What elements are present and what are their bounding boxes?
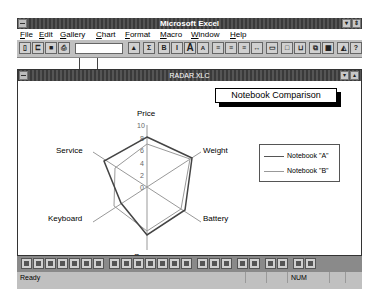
svg-text:10: 10 [137, 122, 145, 129]
new-icon[interactable]: ▯ [19, 42, 31, 54]
style-dropdown-icon[interactable]: ▴ [128, 42, 140, 54]
preferred-chart-icon[interactable] [221, 258, 232, 269]
italic-icon[interactable]: I [171, 42, 183, 54]
menu-format[interactable]: Format [125, 29, 150, 40]
3d-column-icon[interactable] [133, 258, 144, 269]
align-left-icon[interactable]: ≡ [212, 42, 224, 54]
legend-entry-b: Notebook "B" [264, 166, 329, 176]
workspace-gap [17, 58, 362, 69]
bold-icon[interactable]: B [158, 42, 170, 54]
status-text: Ready [20, 272, 40, 283]
app-title: Microsoft Excel [160, 19, 219, 28]
system-menu-icon[interactable] [18, 19, 27, 28]
legend-toggle-icon[interactable] [277, 258, 288, 269]
chart-wizard-icon[interactable]: ◭ [337, 42, 349, 54]
style-box-input[interactable] [75, 43, 123, 54]
radar-chart-icon[interactable] [197, 258, 208, 269]
stacked-column-icon[interactable] [57, 258, 68, 269]
menu-chart[interactable]: Chart [96, 29, 116, 40]
line-marker-circle-icon [264, 156, 284, 157]
svg-text:0: 0 [140, 184, 144, 191]
decrease-font-icon[interactable]: A [197, 42, 209, 54]
copy-icon[interactable]: ⧉ [309, 42, 321, 54]
3d-pie-icon[interactable] [169, 258, 180, 269]
label-price: Price [137, 109, 156, 118]
status-bar: Ready NUM [17, 272, 362, 283]
align-right-icon[interactable]: ≡ [238, 42, 250, 54]
line-marker-x-icon [264, 171, 284, 172]
chart-toolbar [17, 256, 362, 272]
label-service: Service [56, 146, 83, 155]
save-icon[interactable]: ■ [45, 42, 57, 54]
minimize-button[interactable]: ▾ [342, 19, 351, 28]
pie-chart-icon[interactable] [81, 258, 92, 269]
divider [79, 58, 80, 69]
bar-chart-icon[interactable] [33, 258, 44, 269]
divider [97, 58, 98, 69]
align-center-icon[interactable]: ≡ [225, 42, 237, 54]
3d-surface-icon[interactable] [181, 258, 192, 269]
print-icon[interactable]: ⎙ [58, 42, 70, 54]
label-weight: Weight [203, 146, 229, 155]
help-icon[interactable]: ? [350, 42, 362, 54]
standard-toolbar: ▯ ⊏ ■ ⎙ ▴ Σ B I A A ≡ ≡ ≡ ↔ ▭ □ ⊔ ⧉ ▦ ◭ … [17, 40, 362, 58]
menu-gallery[interactable]: Gallery [60, 29, 85, 40]
series-b-polygon [114, 144, 190, 231]
app-title-bar[interactable]: Microsoft Excel ▾ ⇕ [17, 18, 362, 29]
svg-text:4: 4 [140, 160, 144, 167]
restore-button[interactable]: ⇕ [352, 19, 361, 28]
status-cell [329, 272, 345, 283]
3d-perspective-icon[interactable] [145, 258, 156, 269]
chart-gallery-icon[interactable] [249, 258, 260, 269]
combination-chart-icon[interactable] [209, 258, 220, 269]
scatter-chart-icon[interactable] [93, 258, 104, 269]
3d-line-icon[interactable] [157, 258, 168, 269]
3d-area-icon[interactable] [109, 258, 120, 269]
open-icon[interactable]: ⊏ [32, 42, 44, 54]
3d-bar-icon[interactable] [121, 258, 132, 269]
center-across-icon[interactable]: ↔ [251, 42, 263, 54]
status-cell [245, 272, 266, 283]
label-battery: Battery [203, 214, 228, 223]
menu-file[interactable]: File [20, 29, 33, 40]
chart-document-window: RADAR.XLC ▾ ▴ Notebook Comparison 10 8 6… [17, 69, 362, 256]
increase-font-icon[interactable]: A [184, 42, 196, 54]
label-keyboard: Keyboard [48, 214, 82, 223]
menu-window[interactable]: Window [191, 29, 219, 40]
menu-help[interactable]: Help [230, 29, 246, 40]
menu-bar: File Edit Gallery Chart Format Macro Win… [17, 29, 362, 40]
menu-macro[interactable]: Macro [160, 29, 182, 40]
arrow-tool-icon[interactable] [293, 258, 304, 269]
text-box-icon[interactable] [305, 258, 316, 269]
area-chart-icon[interactable] [21, 258, 32, 269]
box-border-icon[interactable]: □ [281, 42, 293, 54]
chart-wizard-icon[interactable] [237, 258, 248, 269]
category-labels: Price Weight Battery Screen Keyboard Ser… [48, 109, 229, 255]
radial-tick-labels: 10 8 6 4 2 0 [137, 122, 145, 191]
menu-edit[interactable]: Edit [39, 29, 53, 40]
outline-border-icon[interactable]: ▭ [266, 42, 278, 54]
legend-entry-a: Notebook "A" [264, 151, 329, 161]
status-cell [266, 272, 287, 283]
column-chart-icon[interactable] [45, 258, 56, 269]
horizontal-gridlines-icon[interactable] [265, 258, 276, 269]
label-screen: Screen [134, 252, 159, 255]
num-lock-indicator: NUM [287, 272, 331, 283]
paste-format-icon[interactable]: ▦ [322, 42, 334, 54]
bottom-border-icon[interactable]: ⊔ [294, 42, 306, 54]
chart-legend[interactable]: Notebook "A" Notebook "B" [259, 144, 340, 182]
svg-text:2: 2 [140, 172, 144, 179]
status-cell [345, 272, 362, 283]
line-chart-icon[interactable] [69, 258, 80, 269]
autosum-icon[interactable]: Σ [143, 42, 155, 54]
excel-window: Microsoft Excel ▾ ⇕ File Edit Gallery Ch… [17, 18, 362, 289]
